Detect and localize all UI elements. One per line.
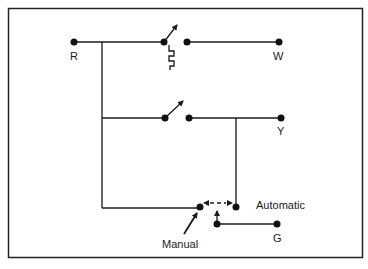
terminal-g-label: G [273,232,282,244]
terminal-y-dot [278,115,285,122]
cool-switch-contact-dot [186,115,193,122]
automatic-label: Automatic [256,199,305,211]
manual-pointer-arrow [184,213,197,234]
terminal-r-label: R [70,50,78,62]
heat-anticipator-resistor-icon [169,45,174,70]
fan-selector-pivot-dot [214,221,221,228]
heat-switch-pivot-dot [161,39,168,46]
terminal-r-dot [71,39,78,46]
manual-contact-dot [197,204,204,211]
cool-switch-blade [165,101,183,118]
automatic-contact-dot [233,204,240,211]
diagram-frame [9,9,363,258]
wiring-diagram: R W Y G Automatic Manual [0,0,368,269]
terminal-g-dot [274,221,281,228]
manual-label: Manual [162,238,198,250]
heat-switch-contact-dot [184,39,191,46]
terminal-w-label: W [273,50,284,62]
terminal-w-dot [276,39,283,46]
cool-switch-pivot-dot [162,115,169,122]
terminal-y-label: Y [277,125,285,137]
